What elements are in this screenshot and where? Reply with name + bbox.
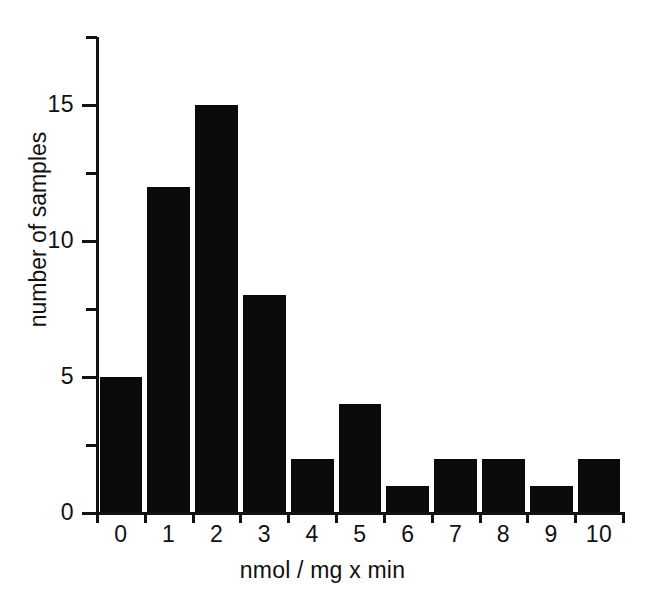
x-axis-line	[96, 512, 623, 515]
bar	[147, 187, 190, 513]
bar	[482, 459, 525, 513]
bar	[291, 459, 334, 513]
bar	[386, 486, 429, 513]
x-axis-title: nmol / mg x min	[0, 558, 645, 582]
bar	[434, 459, 477, 513]
bar	[578, 459, 621, 513]
bar	[195, 105, 238, 513]
bar	[530, 486, 573, 513]
histogram-figure: number of samples 051015 012345678910 nm…	[0, 0, 645, 605]
bar	[243, 295, 286, 513]
x-tick-label: 10	[569, 521, 629, 547]
bar	[339, 404, 382, 513]
bar	[100, 377, 143, 513]
